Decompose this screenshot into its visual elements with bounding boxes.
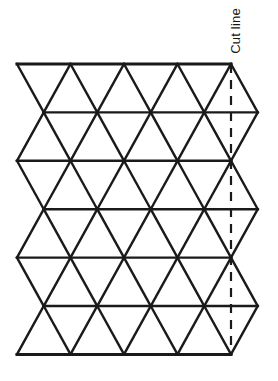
triangular-lattice-figure: Cut line xyxy=(0,0,278,381)
cut-line-label: Cut line xyxy=(207,1,265,61)
grid-lines xyxy=(17,64,258,354)
